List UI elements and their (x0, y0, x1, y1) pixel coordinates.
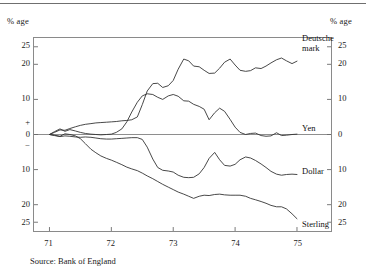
series-line-dollar (49, 135, 297, 178)
y-tick-label-left: 10 (6, 165, 30, 174)
x-tick-label: 74 (225, 239, 245, 248)
y-tick-label-right: 20 (338, 59, 362, 68)
x-tick-label: 75 (288, 239, 308, 248)
series-paths (49, 58, 297, 219)
y-axis-unit-right: % age (330, 16, 352, 26)
series-line-sterling (49, 134, 297, 219)
y-tick-label-left: 20 (6, 200, 30, 209)
x-tick-label: 71 (39, 239, 59, 248)
y-tick-label-left: + (6, 118, 30, 127)
y-tick-label-left: 25 (6, 218, 30, 227)
y-tick-label-right: 10 (338, 165, 362, 174)
series-line-yen (49, 94, 297, 136)
y-tick-label-left: 0 (6, 130, 30, 139)
chart-figure: % age % age 252010+0−102025 252010010202… (0, 0, 366, 277)
y-tick-label-right: 10 (338, 94, 362, 103)
y-tick-label-left: 10 (6, 94, 30, 103)
x-tick-label: 72 (101, 239, 121, 248)
series-line-deutsche-mark (49, 58, 297, 134)
y-tick-label-right: 0 (338, 130, 362, 139)
source-note: Source: Bank of England (30, 256, 116, 266)
y-tick-label-left: 25 (6, 41, 30, 50)
y-tick-label-right: 25 (338, 41, 362, 50)
chart-lines (34, 38, 331, 231)
series-label-dollar: Dollar (302, 166, 324, 176)
y-tick-label-left: − (6, 141, 30, 150)
series-label-yen: Yen (302, 123, 315, 133)
series-label-deutsche-mark: Deutsche mark (302, 33, 334, 53)
x-tick-label: 73 (163, 239, 183, 248)
y-tick-label-right: 20 (338, 200, 362, 209)
y-tick-label-right: 25 (338, 218, 362, 227)
series-label-sterling: Sterling (302, 219, 329, 229)
y-axis-unit-left: % age (7, 16, 29, 26)
plot-area (33, 37, 332, 232)
top-divider (0, 3, 366, 4)
axis-tick-marks (34, 47, 331, 231)
y-tick-label-left: 20 (6, 59, 30, 68)
